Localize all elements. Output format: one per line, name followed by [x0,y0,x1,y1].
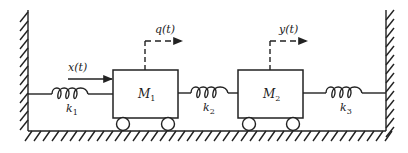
spring-k1 [28,88,113,99]
m2-wheel-left [243,118,256,131]
q-displacement-arrow [145,41,182,70]
right-wall [386,10,394,137]
m1-wheel-left [117,118,130,131]
y-displacement-arrow [270,41,307,70]
k3-label: k3 [340,101,352,116]
m1-wheel-right [162,118,175,131]
left-wall [20,10,28,131]
k1-label: k1 [66,102,78,117]
m2-wheel-right [287,118,300,131]
k2-label: k2 [203,101,215,116]
y-t-label: y(t) [278,23,298,36]
mass-spring-diagram: k1 x(t) M1 q(t) k2 M2 y(t) k3 [0,0,408,153]
x-t-label: x(t) [68,61,87,74]
spring-k2 [178,87,238,98]
spring-k3 [303,87,386,98]
floor [25,131,392,141]
q-t-label: q(t) [155,23,175,36]
